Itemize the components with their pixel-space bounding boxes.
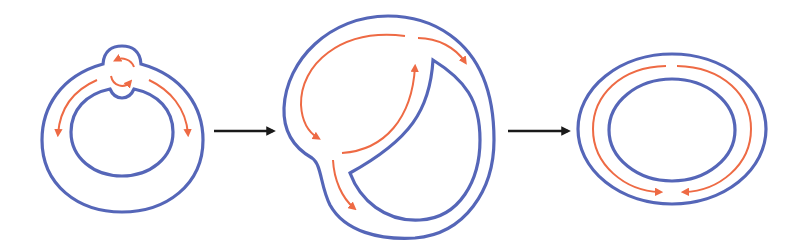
stage-2-flow-lower-left: [333, 160, 354, 208]
stage-2-flow-upper-left: [301, 35, 405, 138]
diagram-canvas: Three-stage schematic: a ring with a loc…: [0, 0, 804, 247]
stage-2-flow-inner-up: [342, 67, 415, 153]
stage-3-flow-right: [677, 66, 751, 192]
stage-3-inner-boundary: [609, 79, 735, 181]
stage-1-ring-with-bump: [42, 46, 203, 212]
diagram-svg: [0, 0, 804, 247]
stage-2-inner-boundary: [350, 60, 480, 220]
stage-2-outer-boundary: [284, 16, 494, 238]
stage-1-flow-bump-top: [116, 59, 134, 67]
stage-1-flow-bump-bottom: [111, 76, 130, 86]
stage-3-flow-left: [593, 66, 666, 192]
stage-2-deformed-loop: [284, 16, 494, 238]
stage-1-inner-boundary: [71, 89, 173, 176]
stage-3-elliptical-ring: [578, 54, 766, 204]
stage-1-outer-boundary: [42, 46, 203, 212]
